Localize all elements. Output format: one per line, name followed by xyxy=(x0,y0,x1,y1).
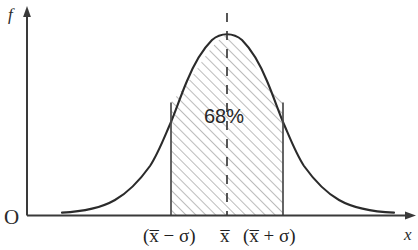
tick-label-mean-plus-sigma: (x̅ + σ) xyxy=(243,225,296,247)
figure-canvas: f x O 68% (x̅ − σ) x̅ (x̅ + σ) xyxy=(0,0,418,250)
x-axis-label: x xyxy=(403,225,412,244)
area-percent-label: 68% xyxy=(204,105,244,127)
y-axis-arrowhead xyxy=(23,6,31,17)
y-axis xyxy=(23,6,31,216)
y-axis-label: f xyxy=(8,5,15,24)
tick-label-mean: x̅ xyxy=(220,225,230,246)
origin-label: O xyxy=(4,205,19,229)
x-axis-arrowhead xyxy=(405,212,416,220)
tick-label-mean-minus-sigma: (x̅ − σ) xyxy=(143,225,196,247)
normal-distribution-figure: f x O 68% (x̅ − σ) x̅ (x̅ + σ) xyxy=(0,0,418,250)
